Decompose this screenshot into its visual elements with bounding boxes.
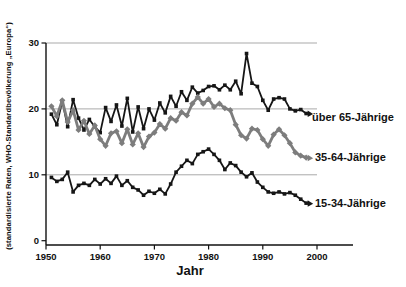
series-0-marker: [163, 111, 167, 115]
series-2-marker: [228, 161, 232, 165]
series-2-marker: [131, 186, 135, 190]
series-0-marker: [234, 79, 238, 83]
series-0-marker: [283, 97, 287, 101]
series-2-marker: [299, 197, 303, 201]
series-0-marker: [71, 98, 75, 102]
y-tick-label-20: 20: [28, 103, 39, 114]
chart-figure: 1950196019701980199020000102030 (standar…: [0, 0, 406, 287]
series-0-marker: [82, 128, 86, 132]
series-0-marker: [50, 112, 54, 116]
series-1-end-arrow-icon: [308, 155, 314, 162]
y-axis-label: (standardisierte Raten, WHO-Standardbevö…: [4, 0, 16, 272]
series-2-marker: [234, 164, 238, 168]
series-2-marker: [71, 190, 75, 194]
series-0-marker: [218, 88, 222, 92]
x-tick-label-2000: 2000: [306, 251, 327, 262]
series-2-marker: [245, 175, 249, 179]
series-0-marker: [256, 85, 260, 89]
series-2-marker: [98, 182, 102, 186]
series-2-marker: [82, 182, 86, 186]
series-2-marker: [163, 192, 167, 196]
series-2-marker: [283, 192, 287, 196]
series-2-marker: [153, 191, 157, 195]
series-2-marker: [272, 191, 276, 195]
series-2-marker: [60, 178, 64, 182]
series-2-marker: [201, 150, 205, 154]
series-2-marker: [185, 159, 189, 163]
series-0-marker: [207, 85, 211, 89]
series-2-marker: [120, 184, 124, 188]
series-2-marker: [50, 176, 54, 180]
series-2-marker: [223, 168, 227, 172]
y-tick-label-30: 30: [28, 37, 39, 48]
series-2-marker: [218, 159, 222, 163]
series-2-end-arrow-icon: [308, 200, 314, 207]
series-2-marker: [142, 193, 146, 197]
series-0-marker: [126, 97, 130, 101]
series-0-marker: [277, 96, 281, 100]
series-0-marker: [239, 92, 243, 96]
series-label-15-34-jaehrige: 15-34-Jährige: [315, 197, 386, 209]
series-0-marker: [304, 112, 308, 116]
series-0-marker: [223, 83, 227, 87]
series-0-marker: [250, 81, 254, 85]
series-0-marker: [142, 127, 146, 131]
series-0-marker: [169, 95, 173, 99]
series-0-marker: [55, 123, 59, 127]
series-2-marker: [136, 188, 140, 192]
series-0-marker: [288, 107, 292, 111]
series-2-marker: [196, 153, 200, 157]
series-2-marker: [250, 171, 254, 175]
series-line-2: [51, 149, 306, 203]
series-2-marker: [207, 147, 211, 151]
series-2-marker: [104, 177, 108, 181]
series-0-marker: [153, 118, 157, 122]
series-0-marker: [88, 118, 92, 122]
series-0-marker: [245, 52, 249, 56]
x-tick-label-1950: 1950: [35, 251, 56, 262]
series-0-marker: [158, 101, 162, 105]
series-2-marker: [55, 180, 59, 184]
series-2-marker: [266, 190, 270, 194]
x-axis-label: Jahr: [140, 263, 240, 278]
series-0-marker: [212, 84, 216, 88]
x-tick-label-1960: 1960: [90, 251, 111, 262]
series-2-marker: [277, 190, 281, 194]
series-label-35-64-jaehrige: 35-64-Jährige: [315, 151, 386, 163]
series-2-marker: [158, 187, 162, 191]
series-label-ueber-65-jaehrige: über 65-Jährige: [312, 111, 394, 123]
series-2-marker: [126, 179, 130, 183]
series-2-marker: [212, 153, 216, 157]
series-2-marker: [294, 193, 298, 197]
series-0-marker: [147, 107, 151, 111]
series-2-marker: [304, 201, 308, 205]
x-tick-label-1970: 1970: [144, 251, 165, 262]
series-2-marker: [256, 180, 260, 184]
series-0-marker: [66, 125, 70, 129]
series-0-marker: [120, 124, 124, 128]
series-0-marker: [294, 109, 298, 113]
series-2-marker: [115, 174, 119, 178]
series-0-marker: [228, 88, 232, 92]
series-0-marker: [201, 89, 205, 93]
series-0-marker: [136, 105, 140, 109]
y-tick-label-10: 10: [28, 169, 39, 180]
series-0-marker: [77, 116, 81, 120]
series-0-marker: [261, 99, 265, 103]
series-0-marker: [266, 108, 270, 112]
series-2-marker: [77, 184, 81, 188]
series-0-marker: [174, 104, 178, 108]
series-0-marker: [191, 85, 195, 89]
series-0-marker: [272, 97, 276, 101]
series-2-marker: [147, 189, 151, 193]
series-2-marker: [180, 164, 184, 168]
series-2-marker: [93, 178, 97, 182]
series-0-marker: [109, 120, 113, 124]
series-2-marker: [66, 170, 70, 174]
series-0-marker: [185, 99, 189, 103]
series-2-marker: [88, 184, 92, 188]
series-2-marker: [261, 186, 265, 190]
series-2-marker: [191, 162, 195, 166]
x-tick-label-1980: 1980: [198, 251, 219, 262]
line-chart-canvas: 1950196019701980199020000102030: [0, 0, 406, 287]
